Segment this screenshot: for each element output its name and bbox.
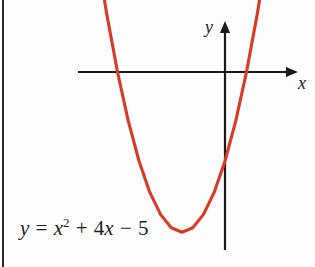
equation-term2-variable: x [104,216,113,240]
y-axis-label: y [205,18,213,36]
equation-minus-operator: − [119,216,133,240]
equation-label: y = x2 + 4x − 5 [20,218,149,239]
x-axis-label: x [298,74,306,92]
equation-term2-coefficient: 4 [94,216,105,240]
equation-lhs: y [20,216,29,240]
equation-term1-exponent: 2 [63,215,70,230]
equation-equals: = [35,216,49,240]
equation-term1-variable: x [54,216,63,240]
y-axis-arrowhead [220,21,230,33]
equation-constant: 5 [138,216,149,240]
x-axis-arrowhead [286,67,298,77]
parabola-figure: y x y = x2 + 4x − 5 [0,0,315,267]
parabola-curve [90,0,275,232]
equation-plus-operator: + [75,216,89,240]
